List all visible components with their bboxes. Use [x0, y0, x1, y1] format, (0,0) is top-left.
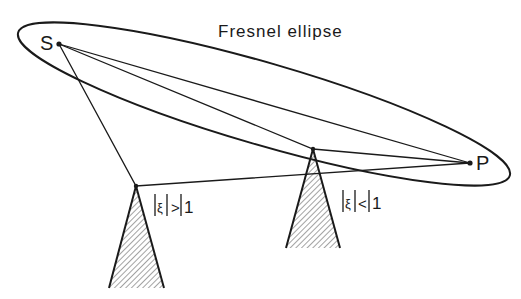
diagram-title: Fresnel ellipse [218, 22, 343, 41]
ray-via-left-obstacle [59, 44, 470, 186]
source-label: S [40, 32, 53, 54]
svg-text:1: 1 [372, 194, 381, 213]
right-obstacle-label: ξ < 1 [343, 190, 381, 213]
svg-text:1: 1 [184, 198, 193, 217]
left-obstacle-label: ξ > 1 [155, 194, 193, 217]
receiver-point [467, 160, 472, 165]
svg-text:<: < [358, 195, 367, 212]
svg-text:>: > [171, 199, 180, 216]
svg-text:ξ: ξ [345, 196, 351, 211]
ray-paths [59, 44, 470, 186]
fresnel-diagram: S P Fresnel ellipse ξ > 1 ξ < 1 [0, 0, 521, 299]
right-apex-point [311, 147, 315, 151]
left-obstacle [109, 186, 164, 288]
left-apex-point [134, 184, 138, 188]
receiver-label: P [476, 152, 489, 174]
source-point [56, 41, 61, 46]
svg-text:ξ: ξ [157, 200, 163, 215]
